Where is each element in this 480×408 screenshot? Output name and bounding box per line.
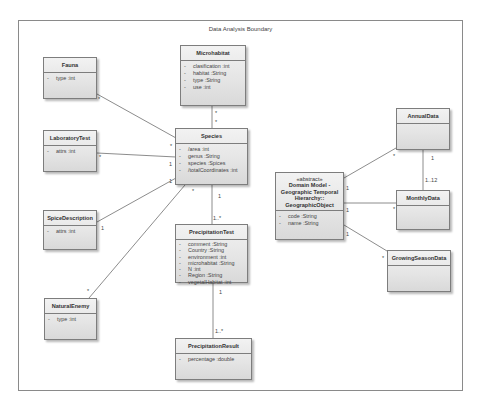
attribute: -name :String xyxy=(279,220,340,227)
class-name: GrowingSeasonData xyxy=(388,251,450,266)
class-growing-season-data[interactable]: GrowingSeasonData xyxy=(387,250,451,292)
multiplicity-label: * xyxy=(215,110,217,116)
class-annual-data[interactable]: AnnualData xyxy=(396,108,450,150)
attribute: -type :int xyxy=(47,75,93,82)
multiplicity-label: 1 xyxy=(346,207,349,213)
multiplicity-label: * xyxy=(215,119,217,125)
class-microhabitat[interactable]: Microhabitat -clasification :int -habita… xyxy=(180,45,246,106)
class-name: Fauna xyxy=(44,58,96,73)
class-name: SpiceDescription xyxy=(44,211,96,226)
class-natural-enemy[interactable]: NaturalEnemy -type :int xyxy=(44,298,97,340)
attribute: -clasification :int xyxy=(184,63,242,70)
attribute: -genus :String xyxy=(179,153,244,160)
class-fauna[interactable]: Fauna -type :int xyxy=(43,57,97,99)
class-geographic-object[interactable]: «abstract» Domain Model - Geographic Tem… xyxy=(275,172,344,240)
attribute: -type :String xyxy=(184,77,242,84)
multiplicity-label: * xyxy=(170,143,172,149)
assoc-laboratory-species xyxy=(97,153,176,157)
multiplicity-label: 1 xyxy=(431,155,434,161)
multiplicity-label: 1..* xyxy=(215,328,223,334)
multiplicity-label: 1 xyxy=(169,161,172,167)
assoc-enemy-species xyxy=(89,185,185,298)
class-name: PrecipitationTest xyxy=(176,225,247,240)
multiplicity-label: * xyxy=(98,96,100,102)
class-laboratory-test[interactable]: LaboratoryTest -attrs :int xyxy=(43,130,97,172)
class-precipitation-test[interactable]: PrecipitationTest -comment :String -Coun… xyxy=(175,224,248,283)
multiplicity-label: 1 xyxy=(346,185,349,191)
class-monthly-data[interactable]: MonthlyData xyxy=(396,190,450,230)
multiplicity-label: 1..12 xyxy=(425,177,437,183)
class-name: PrecipitationResult xyxy=(176,339,251,354)
class-name: Microhabitat xyxy=(181,46,245,61)
multiplicity-label: 1 xyxy=(101,225,104,231)
multiplicity-label: 1 xyxy=(169,178,172,184)
attribute: -attrs :int xyxy=(47,148,93,155)
class-name: «abstract» Domain Model - Geographic Tem… xyxy=(276,173,343,211)
multiplicity-label: * xyxy=(192,188,194,194)
attribute: -/totalCoordinates :int xyxy=(179,167,244,174)
multiplicity-label: * xyxy=(99,154,101,160)
multiplicity-label: * xyxy=(393,153,395,159)
attribute: -/area :int xyxy=(179,146,244,153)
class-name: NaturalEnemy xyxy=(45,299,96,314)
class-name: LaboratoryTest xyxy=(44,131,96,146)
multiplicity-label: 1..* xyxy=(213,215,221,221)
class-name: AnnualData xyxy=(397,109,449,124)
attribute: -vegetalHabitat :int xyxy=(179,279,244,285)
attribute: -code :String xyxy=(279,213,340,220)
class-precipitation-result[interactable]: PrecipitationResult -percentage :double xyxy=(175,338,252,380)
diagram-canvas: Data Analysis Boundary xyxy=(0,0,480,408)
assoc-geo-annual xyxy=(344,148,396,178)
assoc-geo-growing xyxy=(344,225,387,251)
class-name: MonthlyData xyxy=(397,191,449,206)
multiplicity-label: 1 xyxy=(346,231,349,237)
class-name: Species xyxy=(176,129,247,144)
assoc-spice-species xyxy=(97,178,176,222)
attribute: -species :Spices xyxy=(179,160,244,167)
attribute: -use :int xyxy=(184,84,242,91)
attribute: -type :int xyxy=(48,316,93,323)
attribute: -percentage :double xyxy=(179,356,248,363)
class-spice-description[interactable]: SpiceDescription -attrs :int xyxy=(43,210,97,250)
multiplicity-label: 1 xyxy=(218,193,221,199)
attribute: -attrs :int xyxy=(47,228,93,235)
class-species[interactable]: Species -/area :int -genus :String -spec… xyxy=(175,128,248,185)
attribute: -habitat :String xyxy=(184,70,242,77)
assoc-fauna-species xyxy=(97,94,176,138)
multiplicity-label: * xyxy=(393,206,395,212)
multiplicity-label: * xyxy=(382,255,384,261)
multiplicity-label: 1 xyxy=(219,289,222,295)
multiplicity-label: * xyxy=(87,288,89,294)
